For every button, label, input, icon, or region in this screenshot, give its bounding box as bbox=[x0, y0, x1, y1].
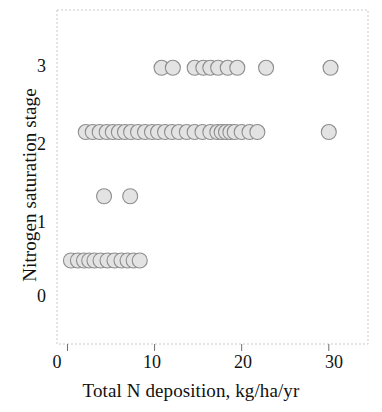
data-points-layer bbox=[63, 60, 338, 268]
x-tick-label-10: 10 bbox=[132, 352, 172, 373]
data-point bbox=[321, 125, 336, 140]
data-point bbox=[323, 60, 338, 75]
plot-canvas bbox=[0, 0, 382, 412]
x-tick-label-30: 30 bbox=[314, 352, 354, 373]
data-point bbox=[250, 125, 265, 140]
x-tick-label-20: 20 bbox=[223, 352, 263, 373]
data-point bbox=[259, 60, 274, 75]
x-tick-label-0: 0 bbox=[37, 352, 77, 373]
data-point bbox=[132, 253, 147, 268]
data-point bbox=[123, 189, 138, 204]
x-axis-title: Total N deposition, kg/ha/yr bbox=[0, 380, 382, 402]
scatter-chart-figure: 0 10 20 30 0 1 2 3 Total N deposition, k… bbox=[0, 0, 382, 412]
data-point bbox=[165, 60, 180, 75]
data-point bbox=[97, 189, 112, 204]
x-axis-tick-marks bbox=[67, 344, 328, 351]
y-axis-title: Nitrogen saturation stage bbox=[19, 35, 41, 335]
data-point bbox=[230, 60, 245, 75]
